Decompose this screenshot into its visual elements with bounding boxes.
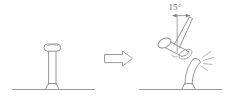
angle-label: 15° bbox=[168, 2, 181, 12]
impact-line-4 bbox=[201, 66, 208, 70]
impact-line-2 bbox=[204, 57, 214, 60]
hammer-handle-end-cap bbox=[189, 17, 192, 19]
hammer-head-nub bbox=[172, 56, 177, 58]
post-base-right bbox=[182, 84, 195, 90]
post-base-left bbox=[46, 84, 60, 90]
diagram-canvas: 15° bbox=[0, 0, 234, 103]
bent-post-top-face bbox=[193, 58, 200, 62]
bent-post-right-edge bbox=[192, 62, 200, 84]
right-panel-deformed-state: 15° bbox=[139, 2, 222, 90]
diagram-svg: 15° bbox=[0, 0, 234, 103]
hammer-head-group bbox=[156, 36, 193, 61]
block-arrow-right-icon bbox=[105, 51, 133, 66]
dimension-arrow-left bbox=[172, 14, 176, 18]
impact-line-3 bbox=[203, 64, 212, 65]
impact-marks-group bbox=[201, 52, 214, 71]
post-top-cap-left bbox=[44, 44, 61, 51]
left-panel-undeformed-state bbox=[12, 44, 95, 90]
hammer-handle-group bbox=[174, 17, 192, 48]
impact-line-1 bbox=[203, 52, 211, 58]
transition-arrow-group bbox=[105, 51, 133, 66]
